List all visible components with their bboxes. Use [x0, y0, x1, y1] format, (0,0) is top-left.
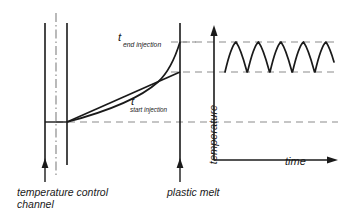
y-axis-arrow-head	[210, 25, 217, 36]
t-end-injection-subscript-label: end injection	[123, 41, 161, 49]
mold-cross-section	[45, 13, 180, 175]
t-start-injection-subscript-label: start injection	[130, 106, 167, 113]
callout-arrows	[42, 158, 184, 182]
temperature-waveform	[225, 42, 334, 72]
x-axis-arrow-head	[327, 156, 338, 163]
y-axis-label-temperature: temperature	[207, 97, 220, 171]
temperature-control-channel-arrow-head	[42, 158, 49, 168]
plastic-melt-arrow-head	[177, 158, 184, 168]
t-end-injection-symbol-label: t	[118, 31, 121, 45]
temperature-control-channel-label: temperature control channel	[17, 186, 147, 211]
temperature-time-chart	[210, 25, 338, 164]
y-axis-label-wrapper: temperature	[195, 48, 209, 126]
plastic-melt-label: plastic melt	[167, 186, 220, 198]
curve-t-start-injection	[67, 72, 180, 122]
figure-root: t end injection t start injection temper…	[0, 0, 343, 221]
x-axis-label-time: time	[285, 155, 306, 168]
